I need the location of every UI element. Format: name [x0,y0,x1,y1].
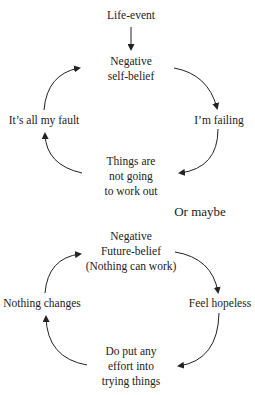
node-line: (Nothing can work) [78,259,184,274]
trigger-text: Life-event [88,8,174,23]
arc-top-right-1 [174,68,217,108]
node-line: self-belief [88,69,174,84]
node-line: Things are [88,154,174,169]
node-line: trying things [88,374,174,389]
node-line: Negative [78,229,184,244]
node-line: effort into [88,359,174,374]
arc-top-left-2 [45,254,80,293]
node-line: I’m failing [188,113,250,128]
arc-bottom-right-1 [180,129,218,173]
node-line: Future-belief [78,244,184,259]
trigger-label: Life-event [88,8,174,23]
cycle2-bottom-node: Do put any effort into trying things [88,344,174,389]
arc-bottom-right-2 [179,313,219,366]
arc-top-left-1 [44,68,79,110]
separator-line: Or maybe [170,204,230,219]
cycle2-left-node: Nothing changes [2,296,82,311]
cycle1-top-node: Negative self-belief [88,54,174,84]
node-line: not going [88,169,174,184]
cycle1-right-node: I’m failing [188,113,250,128]
cycle2-right-node: Feel hopeless [186,296,254,311]
arc-bottom-left-2 [46,317,87,365]
node-line: Do put any [88,344,174,359]
node-line: to work out [88,184,174,199]
arc-bottom-left-1 [45,134,82,173]
cycle1-left-node: It’s all my fault [4,113,84,128]
cycle2-top-node: Negative Future-belief (Nothing can work… [78,229,184,274]
separator-text: Or maybe [170,204,230,219]
node-line: Negative [88,54,174,69]
node-line: Feel hopeless [186,296,254,311]
node-line: It’s all my fault [4,113,84,128]
node-line: Nothing changes [2,296,82,311]
cycle1-bottom-node: Things are not going to work out [88,154,174,199]
